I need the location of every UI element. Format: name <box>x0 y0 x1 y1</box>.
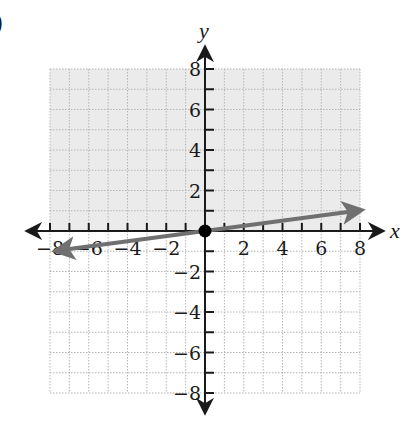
x-axis-label: x <box>389 218 400 243</box>
x-tick-label: −8 <box>36 237 64 259</box>
y-tick-label: −6 <box>173 342 201 364</box>
part-marker: ) <box>0 7 3 36</box>
y-tick-label: 4 <box>189 139 201 161</box>
x-tick-label: 4 <box>276 237 288 259</box>
y-tick-label: 8 <box>189 58 201 80</box>
coordinate-graph: ) −8−6−4−224688642−2−4−6−8 x y <box>0 0 412 437</box>
y-tick-label: 2 <box>189 180 201 202</box>
x-tick-label: −2 <box>152 237 180 259</box>
y-tick-label: −4 <box>173 301 201 323</box>
origin-point <box>199 225 212 238</box>
y-axis-label: y <box>197 18 209 43</box>
x-tick-label: 8 <box>354 237 366 259</box>
y-tick-label: 6 <box>189 99 201 121</box>
y-tick-label: −8 <box>173 382 201 404</box>
x-tick-label: 6 <box>315 237 327 259</box>
y-tick-label: −2 <box>173 261 201 283</box>
x-tick-label: 2 <box>238 237 250 259</box>
